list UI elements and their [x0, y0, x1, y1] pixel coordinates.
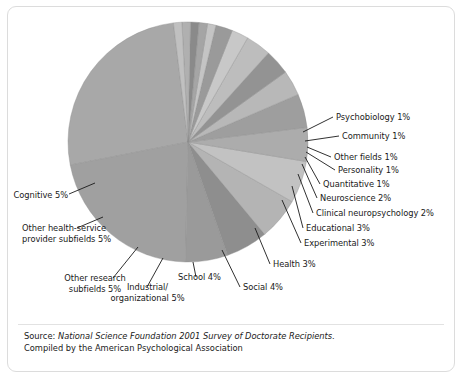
label-psychobiology: Psychobiology 1%	[336, 112, 410, 123]
label-other-health-line1: Other health-service	[22, 223, 106, 233]
leader-clinical-neuro	[298, 174, 313, 213]
leader-other-fields	[307, 147, 331, 157]
label-other-research-line2: subfields 5%	[69, 284, 121, 294]
label-clinical-neuropsychology: Clinical neuropsychology 2%	[316, 208, 434, 219]
label-other-health-service: Other health-service provider subfields …	[22, 223, 142, 244]
label-community: Community 1%	[342, 131, 405, 142]
leader-quantitative	[305, 157, 320, 184]
leader-experimental	[282, 200, 301, 243]
label-quantitative: Quantitative 1%	[323, 179, 390, 190]
label-industrial-line2: organizational 5%	[111, 293, 185, 303]
source-publication: National Science Foundation 2001 Survey …	[58, 331, 335, 341]
pie-chart-graphic	[0, 0, 463, 380]
leader-community	[305, 136, 339, 141]
source-divider	[18, 324, 444, 325]
label-cognitive: Cognitive 5%	[0, 190, 68, 201]
label-other-research-line1: Other research	[64, 273, 125, 283]
label-school: School 4%	[178, 272, 221, 283]
leader-psychobiology	[303, 117, 333, 132]
label-other-research-subfields: Other research subfields 5%	[52, 273, 138, 294]
leader-educational	[292, 186, 303, 228]
pie-slice	[68, 23, 188, 165]
label-health: Health 3%	[273, 259, 316, 270]
label-personality: Personality 1%	[338, 165, 399, 176]
label-educational: Educational 3%	[306, 223, 370, 234]
leader-social	[222, 250, 240, 287]
label-social: Social 4%	[243, 282, 283, 293]
source-prefix: Source:	[24, 331, 58, 341]
source-note: Source: National Science Foundation 2001…	[24, 331, 424, 354]
source-line-2: Compiled by the American Psychological A…	[24, 343, 424, 355]
label-other-health-line2: provider subfields 5%	[22, 234, 111, 244]
source-line-1: Source: National Science Foundation 2001…	[24, 331, 424, 343]
leader-neuroscience	[302, 164, 317, 198]
label-neuroscience: Neuroscience 2%	[320, 193, 391, 204]
label-experimental: Experimental 3%	[304, 238, 374, 249]
pie-chart-figure: Psychobiology 1% Community 1% Other fiel…	[0, 0, 463, 380]
label-other-fields: Other fields 1%	[334, 152, 397, 163]
